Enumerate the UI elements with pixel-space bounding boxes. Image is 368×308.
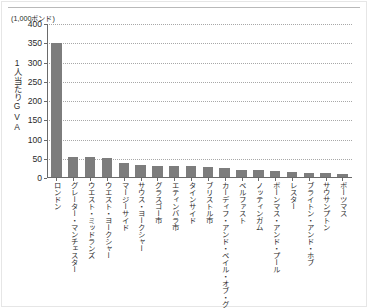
y-axis-tick-mark: [44, 24, 47, 25]
bar-slot: [65, 24, 82, 178]
bar-slot: [334, 24, 351, 178]
y-axis-tick-label: 250: [2, 77, 42, 86]
bar-slot: [199, 24, 216, 178]
bar: [68, 157, 78, 178]
x-axis-category-label: ウエスト・ミッドランズ: [86, 181, 95, 258]
x-label-slot: ウエスト・ヨークシャー: [98, 181, 115, 305]
x-axis-category-label: ボーンマス・アンド・プール: [271, 181, 280, 272]
y-axis-line: [47, 24, 48, 178]
y-axis-tick-mark: [44, 101, 47, 102]
x-label-slot: マージーサイド: [115, 181, 132, 305]
y-axis-tick-mark: [44, 178, 47, 179]
chart-figure: (1,000ポンド) 1人当たりGVA 05010015020025030035…: [0, 0, 368, 308]
x-axis-category-label: ウエスト・ヨークシャー: [103, 181, 112, 258]
x-label-slot: ベルファスト: [233, 181, 250, 305]
x-label-slot: レスター: [284, 181, 301, 305]
x-axis-category-label: ブリストル市: [204, 181, 213, 223]
bar-slot: [48, 24, 65, 178]
bar: [51, 43, 61, 178]
bar: [85, 157, 95, 178]
x-axis-category-label: ブライトン・アンド・ホブ: [305, 181, 314, 265]
x-axis-category-label: サウス・ヨークシャー: [136, 181, 145, 251]
x-label-slot: ブリストル市: [199, 181, 216, 305]
bar: [119, 163, 129, 178]
bar-slot: [115, 24, 132, 178]
x-label-slot: サウス・ヨークシャー: [132, 181, 149, 305]
y-axis-tick-label: 150: [2, 116, 42, 125]
x-axis-category-label: ノッティンガム: [254, 181, 263, 230]
y-axis-tick-mark: [44, 120, 47, 121]
x-label-slot: ボーンマス・アンド・プール: [267, 181, 284, 305]
x-label-slot: ウエスト・ミッドランズ: [82, 181, 99, 305]
y-axis-tick-mark: [44, 82, 47, 83]
x-label-slot: タインサイド: [183, 181, 200, 305]
x-label-slot: ロンドン: [48, 181, 65, 305]
x-label-slot: ポーツマス: [334, 181, 351, 305]
bar-slot: [284, 24, 301, 178]
x-axis-category-label: レスター: [288, 181, 297, 209]
bar-slot: [233, 24, 250, 178]
x-label-slot: グレーター・マンチェスター: [65, 181, 82, 305]
y-axis-tick-label: 400: [2, 20, 42, 29]
x-axis-category-label: グラスゴー市: [153, 181, 162, 223]
bar-series: [47, 24, 352, 178]
x-axis-category-label: サウサンプトン: [321, 181, 330, 230]
x-axis-line: [47, 177, 352, 178]
y-axis-tick-mark: [44, 43, 47, 44]
x-axis-category-label: タインサイド: [187, 181, 196, 223]
x-axis-category-label: ロンドン: [52, 181, 61, 209]
x-axis-category-labels: ロンドングレーター・マンチェスターウエスト・ミッドランズウエスト・ヨークシャーマ…: [47, 181, 352, 305]
x-axis-category-label: ポーツマス: [338, 181, 347, 216]
y-axis-tick-label: 200: [2, 97, 42, 106]
bar-slot: [183, 24, 200, 178]
x-label-slot: カーディフ・アンド・ベイル・オブ・グルモーゲン: [216, 181, 233, 305]
bar-slot: [300, 24, 317, 178]
y-axis-tick-label: 300: [2, 58, 42, 67]
bar-slot: [98, 24, 115, 178]
y-axis-tick-mark: [44, 159, 47, 160]
bar-slot: [82, 24, 99, 178]
bar-slot: [267, 24, 284, 178]
bar-slot: [317, 24, 334, 178]
x-axis-category-label: カーディフ・アンド・ベイル・オブ・グルモーゲン: [220, 181, 229, 303]
y-axis-tick-label: 350: [2, 39, 42, 48]
x-axis-category-label: エティンバラ市: [170, 181, 179, 230]
bar-slot: [132, 24, 149, 178]
bar-slot: [149, 24, 166, 178]
x-label-slot: エティンバラ市: [166, 181, 183, 305]
y-axis-tick-label: 50: [2, 154, 42, 163]
x-axis-category-label: ベルファスト: [237, 181, 246, 223]
bar-slot: [250, 24, 267, 178]
bar-slot: [166, 24, 183, 178]
plot-area: [47, 24, 352, 178]
bar-slot: [216, 24, 233, 178]
x-label-slot: ノッティンガム: [250, 181, 267, 305]
x-label-slot: グラスゴー市: [149, 181, 166, 305]
x-label-slot: ブライトン・アンド・ホブ: [300, 181, 317, 305]
x-axis-category-label: マージーサイド: [119, 181, 128, 230]
top-divider-rule: [8, 7, 360, 8]
y-axis-tick-label: 0: [2, 174, 42, 183]
bar: [102, 158, 112, 178]
y-axis-tick-mark: [44, 63, 47, 64]
y-axis-tick-label: 100: [2, 135, 42, 144]
y-axis-tick-mark: [44, 140, 47, 141]
x-label-slot: サウサンプトン: [317, 181, 334, 305]
x-axis-category-label: グレーター・マンチェスター: [69, 181, 78, 272]
